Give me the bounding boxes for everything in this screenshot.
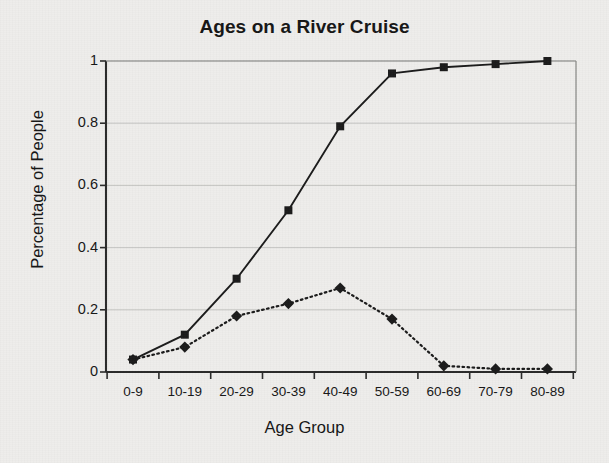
x-tick-label: 40-49 — [311, 384, 369, 399]
data-point-marker-square[interactable] — [388, 69, 396, 77]
y-tick-label: 0.4 — [54, 239, 98, 255]
x-tick-label: 10-19 — [156, 384, 214, 399]
data-point-marker-square[interactable] — [440, 63, 448, 71]
data-point-marker-diamond[interactable] — [231, 310, 242, 321]
data-point-marker-square[interactable] — [543, 57, 551, 65]
x-tick-label: 80-89 — [518, 384, 576, 399]
y-tick-label: 1 — [54, 52, 98, 68]
y-tick-label: 0.2 — [54, 301, 98, 317]
x-tick-label: 60-69 — [415, 384, 473, 399]
data-point-marker-diamond[interactable] — [179, 342, 190, 353]
x-tick-label: 0-9 — [104, 384, 162, 399]
data-point-marker-square[interactable] — [233, 275, 241, 283]
data-point-marker-square[interactable] — [336, 122, 344, 130]
series-line-relative-frequency — [133, 288, 547, 369]
x-tick-label: 30-39 — [259, 384, 317, 399]
data-point-marker-square[interactable] — [181, 331, 189, 339]
x-tick-label: 70-79 — [467, 384, 525, 399]
y-tick-label: 0.6 — [54, 176, 98, 192]
y-tick-label: 0.8 — [54, 114, 98, 130]
data-point-marker-square[interactable] — [492, 60, 500, 68]
data-point-marker-diamond[interactable] — [283, 298, 294, 309]
series-line-cumulative — [133, 61, 547, 360]
chart-figure: Ages on a River Cruise Percentage of Peo… — [0, 0, 609, 463]
data-point-marker-square[interactable] — [284, 206, 292, 214]
x-tick-label: 50-59 — [363, 384, 421, 399]
data-point-marker-diamond[interactable] — [335, 282, 346, 293]
x-tick-label: 20-29 — [208, 384, 266, 399]
y-tick-label: 0 — [54, 363, 98, 379]
